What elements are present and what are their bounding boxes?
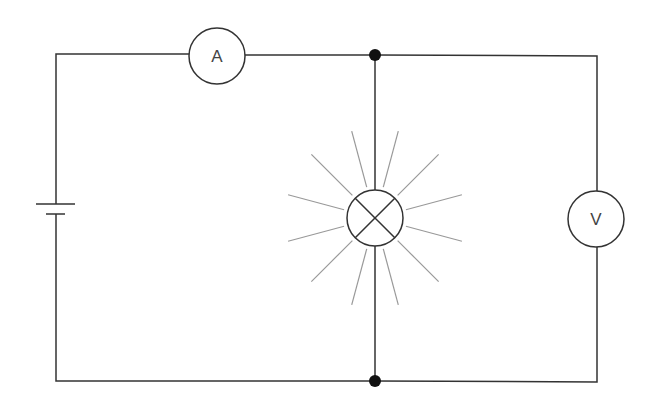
lamp-ray: [288, 195, 344, 210]
lamp-ray: [288, 226, 344, 241]
lamp-ray: [311, 154, 352, 195]
lamp-icon: [347, 190, 403, 246]
lamp-ray: [383, 249, 398, 305]
voltmeter-icon: V: [568, 191, 624, 247]
wire-top: [245, 55, 597, 191]
ammeter-icon: A: [189, 28, 245, 84]
lamp-ray: [398, 154, 439, 195]
lamp-ray: [406, 195, 462, 210]
junction-bottom: [369, 375, 381, 387]
lamp-ray: [398, 241, 439, 282]
lamp-ray: [311, 241, 352, 282]
lamp-ray: [383, 131, 398, 187]
wire-left-upper: [56, 54, 189, 204]
junction-top: [369, 49, 381, 61]
ammeter-label: A: [211, 47, 223, 66]
battery-icon: [36, 204, 75, 214]
circuit-diagram: A V: [0, 0, 650, 407]
wire-left-lower: [56, 214, 375, 381]
wire-right-lower: [375, 247, 597, 382]
lamp-ray: [352, 131, 367, 187]
lamp-ray: [406, 226, 462, 241]
voltmeter-label: V: [590, 210, 602, 229]
lamp-ray: [352, 249, 367, 305]
